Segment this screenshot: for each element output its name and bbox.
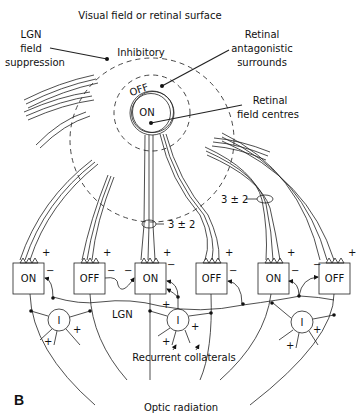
convergence-label-left: 3 ± 2: [168, 219, 195, 230]
svg-text:+: +: [286, 340, 294, 351]
svg-text:surrounds: surrounds: [237, 57, 287, 68]
svg-text:ON: ON: [266, 273, 281, 284]
right-fiber-bundles: [212, 138, 270, 160]
inhibitory-label: Inhibitory: [117, 47, 165, 58]
svg-text:+: +: [44, 336, 52, 347]
svg-text:+: +: [103, 247, 111, 258]
svg-text:−: −: [107, 265, 115, 276]
svg-text:Retinal: Retinal: [253, 95, 288, 106]
centre-pointer: [151, 105, 242, 123]
svg-text:OFF: OFF: [202, 273, 222, 284]
svg-text:antagonistic: antagonistic: [231, 43, 293, 54]
retinal-field-centres-label: Retinal field centres: [237, 95, 299, 120]
relay-cell-3: ON: [135, 263, 166, 294]
surround-pointer: [162, 50, 229, 86]
retinal-antagonistic-surrounds-label: Retinal antagonistic surrounds: [231, 29, 293, 68]
interneuron-center: I + + +: [148, 297, 213, 350]
svg-text:I: I: [177, 315, 180, 326]
relay-cell-1: ON: [13, 263, 44, 294]
svg-text:+: +: [313, 324, 321, 335]
svg-text:+: +: [287, 247, 295, 258]
relay-cell-4: OFF: [196, 263, 227, 294]
afferent-fibers: [20, 133, 334, 260]
svg-text:field centres: field centres: [237, 109, 299, 120]
svg-text:−: −: [229, 265, 237, 276]
svg-text:+: +: [162, 336, 170, 347]
svg-text:+: +: [163, 247, 171, 258]
svg-text:ON: ON: [143, 273, 158, 284]
relay-cell-5: ON: [258, 263, 289, 294]
inhibitory-network-line: [53, 296, 334, 310]
lgn-field-circle: [70, 58, 234, 222]
surround-dot: [160, 84, 164, 88]
interneuron-left: I + +: [29, 309, 92, 347]
svg-text:+: +: [42, 247, 50, 258]
left-fiber-bundles: [24, 75, 98, 148]
interneuron-right: I + +: [273, 303, 336, 351]
svg-text:I: I: [301, 317, 304, 328]
svg-text:I: I: [58, 315, 61, 326]
svg-text:−: −: [291, 265, 299, 276]
svg-text:−: −: [313, 259, 321, 270]
svg-text:field: field: [20, 43, 42, 54]
relay-cell-2: OFF: [74, 263, 105, 294]
svg-text:+: +: [225, 247, 233, 258]
svg-text:OFF: OFF: [325, 273, 345, 284]
centre-dot: [149, 121, 153, 125]
svg-text:ON: ON: [21, 273, 36, 284]
svg-text:+: +: [73, 324, 81, 335]
svg-text:+: +: [191, 321, 199, 332]
on-centre-label: ON: [139, 107, 154, 118]
panel-label: B: [14, 392, 24, 408]
svg-text:+: +: [348, 247, 356, 258]
svg-text:−: −: [124, 265, 132, 276]
suppression-dot: [105, 57, 109, 61]
svg-text:−: −: [167, 259, 175, 270]
lgn-circuit-diagram: Visual field or retinal surface ON OFF I…: [0, 0, 362, 416]
svg-text:−: −: [46, 265, 54, 276]
figure-title: Visual field or retinal surface: [78, 10, 221, 21]
network-junction-dots: [51, 294, 301, 306]
svg-text:OFF: OFF: [80, 273, 100, 284]
svg-text:suppression: suppression: [5, 57, 65, 68]
convergence-label-right: 3 ± 2: [221, 194, 248, 205]
svg-text:+: +: [162, 299, 170, 310]
excitatory-synapses: + + + + + +: [20, 247, 356, 263]
svg-text:LGN: LGN: [21, 29, 42, 40]
recurrent-collaterals-label: Recurrent collaterals: [132, 352, 236, 363]
svg-text:Retinal: Retinal: [245, 29, 280, 40]
optic-radiation-label: Optic radiation: [144, 402, 218, 413]
lgn-field-suppression-label: LGN field suppression: [5, 29, 65, 68]
relay-cell-6: OFF: [319, 263, 350, 294]
lgn-label: LGN: [112, 309, 133, 320]
